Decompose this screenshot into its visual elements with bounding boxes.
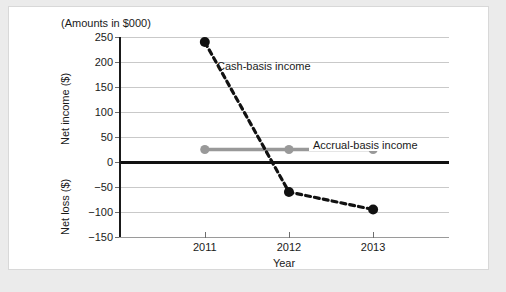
y-tick-label: 0: [107, 156, 113, 168]
data-point-marker: [284, 187, 294, 197]
y-tick-label: 200: [95, 56, 113, 68]
data-point-marker: [200, 37, 210, 47]
y-tick-label: −50: [94, 181, 113, 193]
data-point-marker: [284, 145, 293, 154]
annotation-accrual-basis-income: Accrual-basis income: [309, 139, 422, 151]
x-tick-label: 2012: [277, 241, 301, 253]
data-point-marker: [368, 205, 378, 215]
x-tick-label: 2013: [361, 241, 385, 253]
y-tick-label: 250: [95, 31, 113, 43]
x-axis-label: Year: [119, 257, 449, 269]
x-axis-tick-labels: 201120122013: [119, 241, 449, 257]
y-axis-label-net-loss: Net loss ($): [59, 179, 71, 235]
data-point-marker: [200, 145, 209, 154]
y-tick-label: 50: [101, 131, 113, 143]
annotation-cash-basis-income: Cash-basis income: [217, 60, 311, 72]
y-axis-tick-labels: 250200150100500−50−100−150: [79, 37, 113, 237]
y-tick-label: 100: [95, 106, 113, 118]
y-tick-label: 150: [95, 81, 113, 93]
y-axis-label-net-income: Net income ($): [59, 73, 71, 145]
y-tick-label: −100: [88, 206, 113, 218]
x-tick-label: 2011: [193, 241, 217, 253]
plot-wrapper: Net income ($) Net loss ($) 250200150100…: [9, 7, 488, 269]
y-tick-label: −150: [88, 231, 113, 243]
chart-card: (Amounts in $000) Net income ($) Net los…: [8, 6, 489, 270]
